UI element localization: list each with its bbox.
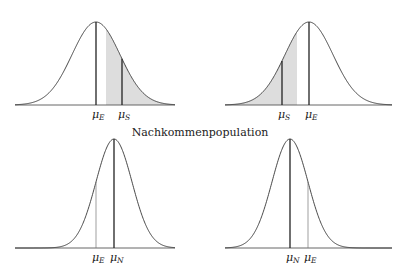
- normal-curve: [225, 139, 392, 248]
- mean-label-subscript: E: [310, 256, 317, 265]
- selected-region-hatching: [232, 33, 296, 105]
- selection-diagram: Nachkommenpopulation μEμSμSμEμEμNμNμE: [0, 0, 399, 271]
- distribution-panel-top-left: μEμS: [15, 22, 175, 122]
- selected-region-hatching: [107, 30, 171, 105]
- mean-label-subscript: S: [125, 113, 130, 122]
- mean-label-subscript: E: [98, 256, 105, 265]
- distribution-panel-bottom-left: μEμN: [15, 139, 175, 265]
- normal-curve: [15, 139, 175, 248]
- mean-label-subscript: E: [98, 113, 105, 122]
- mean-label-subscript: N: [116, 256, 124, 265]
- mean-label-subscript: S: [285, 113, 290, 122]
- distribution-panel-bottom-right: μNμE: [225, 139, 392, 265]
- mean-label-subscript: E: [311, 113, 318, 122]
- mean-label-subscript: N: [292, 256, 300, 265]
- normal-curve: [15, 22, 175, 105]
- distribution-panel-top-right: μSμE: [225, 22, 392, 122]
- offspring-population-label: Nachkommenpopulation: [132, 126, 269, 139]
